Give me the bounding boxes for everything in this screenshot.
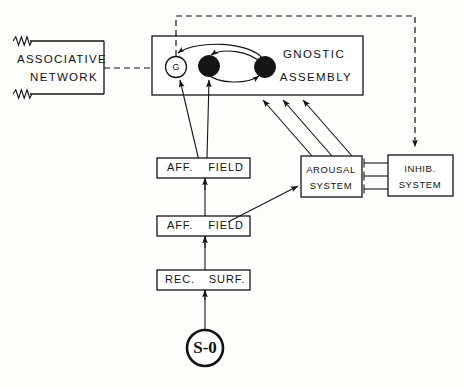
gnostic-unit-label: G: [172, 62, 179, 72]
rec-surf-box: REC. SURF.: [157, 270, 250, 290]
stimulus-node: S-0: [187, 330, 223, 366]
associative-network-label-line2: NETWORK: [30, 71, 98, 83]
inhib-system-box: INHIB. SYSTEM: [388, 155, 453, 196]
gnostic-unit-g-node: G: [166, 57, 187, 78]
rec-surf-label-right: SURF.: [209, 273, 245, 285]
afferent-pathway-lines: [180, 80, 209, 330]
associative-network-label-line1: ASSOCIATIVE: [17, 53, 107, 65]
aff-field-lower-box: AFF. FIELD: [157, 216, 250, 236]
aff-field-lower-label-left: AFF.: [167, 219, 193, 231]
inhib-to-arousal-links: [364, 159, 388, 194]
arousal-system-label-line2: SYSTEM: [310, 180, 353, 191]
aff-field-lower-label-right: FIELD: [208, 219, 244, 231]
arousal-system-label-line1: AROUSAL: [306, 164, 356, 175]
arousal-system-box: AROUSAL SYSTEM: [301, 156, 362, 197]
gnostic-node-middle: [199, 56, 220, 77]
associative-network-box: ASSOCIATIVE NETWORK: [13, 37, 107, 98]
squiggle-icon: [13, 90, 32, 98]
stimulus-label: S-0: [193, 338, 217, 357]
aff-field-upper-label-right: FIELD: [208, 161, 244, 173]
arousal-to-gnostic-links: [263, 100, 352, 156]
inhib-system-label-line1: INHIB.: [404, 163, 436, 174]
diagram-svg: ASSOCIATIVE NETWORK GNOSTIC ASSEMBLY G: [0, 0, 465, 388]
squiggle-icon: [13, 37, 32, 45]
diagram-canvas: ASSOCIATIVE NETWORK GNOSTIC ASSEMBLY G: [0, 0, 465, 388]
inhib-system-label-line2: SYSTEM: [399, 179, 442, 190]
aff-field-to-arousal-link: [228, 186, 298, 222]
aff-field-upper-label-left: AFF.: [167, 161, 193, 173]
gnostic-assembly-label-line1: GNOSTIC: [283, 48, 345, 60]
aff-field-upper-box: AFF. FIELD: [157, 158, 250, 178]
gnostic-assembly-label-line2: ASSEMBLY: [280, 71, 352, 83]
rec-surf-label-left: REC.: [165, 273, 195, 285]
gnostic-node-right: [255, 57, 276, 78]
